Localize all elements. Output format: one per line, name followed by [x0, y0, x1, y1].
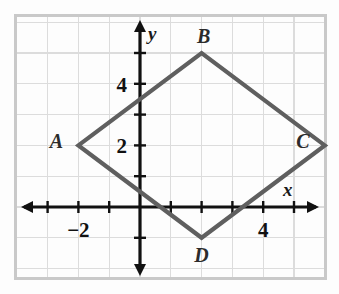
x-tick-label--2: −2 — [67, 218, 89, 242]
y-tick-label-2: 2 — [117, 134, 128, 158]
x-axis-label: x — [282, 179, 293, 200]
plot-svg: −2424 ABCD x y — [0, 0, 339, 294]
x-tick-label-4: 4 — [258, 218, 269, 242]
vertex-label-D: D — [193, 244, 208, 266]
y-axis-label: y — [146, 23, 157, 44]
coordinate-plane-figure: −2424 ABCD x y — [0, 0, 339, 294]
vertex-label-C: C — [296, 130, 310, 152]
vertex-label-B: B — [196, 25, 210, 47]
vertex-label-A: A — [48, 130, 63, 152]
y-tick-label-4: 4 — [117, 73, 128, 97]
